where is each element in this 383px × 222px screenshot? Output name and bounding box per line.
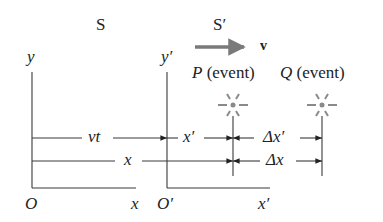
origin-o-label: O (25, 194, 37, 214)
x-axis-label: x (131, 194, 139, 214)
event-p-label: P (event) (192, 63, 255, 83)
event-q-label: Q (event) (280, 63, 345, 83)
relativity-diagram (0, 0, 383, 222)
vt-label: vt (88, 127, 100, 147)
frame-s-label: S (96, 15, 105, 35)
velocity-label: v (260, 38, 267, 54)
x-prime-axis-label: x′ (258, 194, 269, 214)
delta-x-label: Δx (266, 150, 284, 170)
event-p-marker-icon (218, 94, 248, 116)
frame-s-axes (32, 72, 136, 188)
x-prime-distance-label: x′ (183, 127, 194, 147)
y-axis-label: y (27, 47, 35, 67)
delta-x-prime-label: Δx′ (263, 127, 284, 147)
frame-s-prime-label: S′ (213, 15, 226, 35)
y-prime-axis-label: y′ (161, 47, 172, 67)
event-q-marker-icon (307, 94, 337, 116)
origin-o-prime-label: O′ (157, 194, 173, 214)
x-distance-label: x (124, 150, 132, 170)
